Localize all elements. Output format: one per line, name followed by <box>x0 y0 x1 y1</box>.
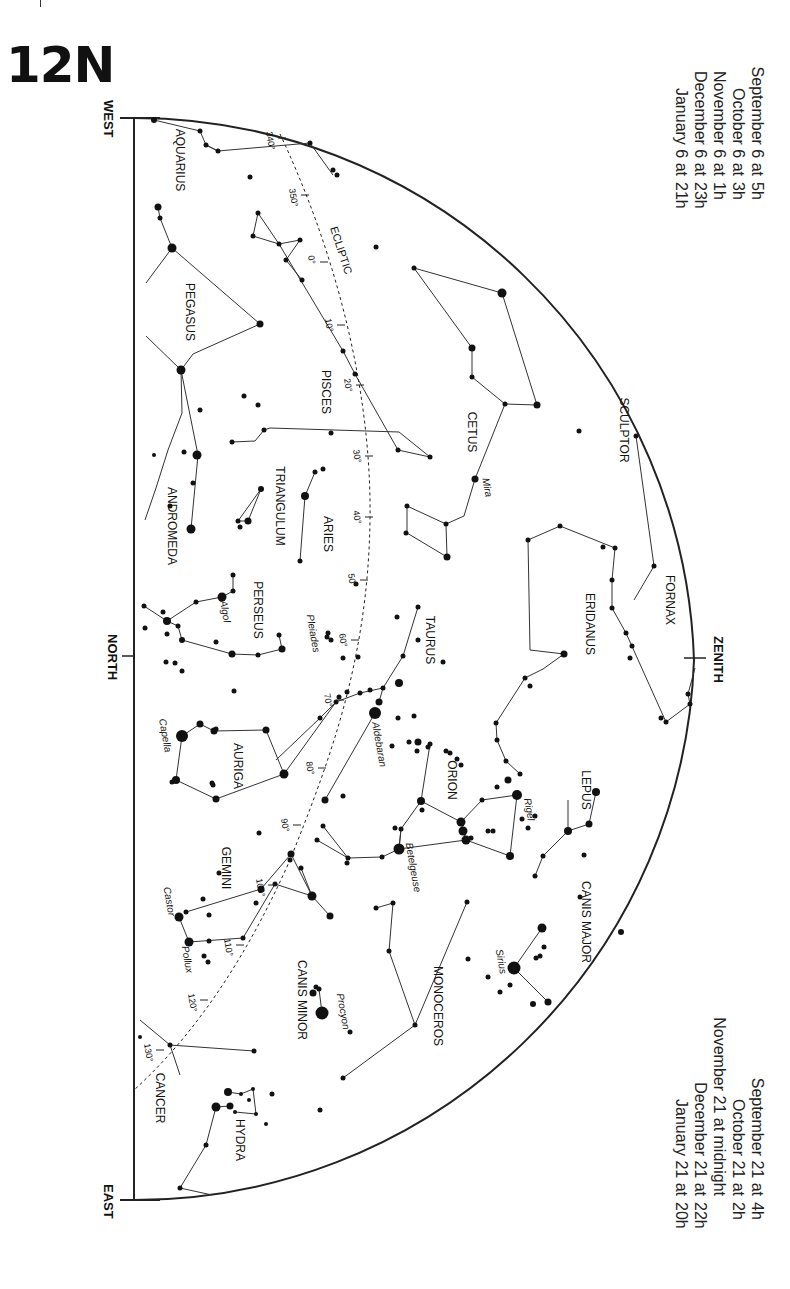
star <box>405 504 410 509</box>
star <box>469 345 476 352</box>
star <box>538 924 547 933</box>
star <box>341 349 346 354</box>
star <box>300 278 305 283</box>
constellation-label: AURIGA <box>231 743 245 789</box>
star <box>374 245 379 250</box>
constellation-label: PISCES <box>319 370 333 414</box>
star <box>329 638 334 643</box>
star <box>256 403 261 408</box>
star <box>248 175 253 180</box>
star <box>155 204 162 211</box>
star <box>227 1103 234 1110</box>
star <box>187 525 196 534</box>
star <box>390 744 395 749</box>
star <box>503 402 508 407</box>
star <box>412 266 417 271</box>
star-name-label: Capella <box>157 718 174 754</box>
star <box>498 289 507 298</box>
star <box>664 720 669 725</box>
star <box>224 1088 232 1096</box>
star <box>495 785 500 790</box>
star <box>197 721 204 728</box>
star <box>270 1092 275 1097</box>
ecliptic-degree-label: 90° <box>279 818 291 834</box>
star <box>204 143 209 148</box>
constellation-line <box>376 903 415 1025</box>
star <box>256 653 261 658</box>
star <box>251 234 256 239</box>
star <box>368 688 373 693</box>
star <box>394 844 405 855</box>
observation-date: December 21 at <box>691 1082 709 1196</box>
star <box>374 906 379 911</box>
star <box>335 173 340 178</box>
constellation-line <box>343 902 467 1078</box>
constellation-label: ORION <box>445 760 459 799</box>
star <box>176 730 188 742</box>
star <box>508 983 513 988</box>
constellation-line <box>407 506 446 524</box>
stars <box>138 117 693 1191</box>
star <box>239 1092 243 1096</box>
star <box>180 669 185 674</box>
constellation-lines <box>140 120 695 1195</box>
direction-north: NORTH <box>105 634 120 680</box>
constellation-label: ERIDANUS <box>583 593 597 655</box>
star <box>577 429 582 434</box>
star <box>444 522 449 527</box>
star <box>624 631 629 636</box>
star <box>202 954 207 959</box>
constellation-label: ARIES <box>321 516 335 552</box>
star <box>152 453 156 457</box>
star <box>254 901 259 906</box>
star <box>316 1007 329 1020</box>
star <box>262 428 267 433</box>
star <box>472 476 479 483</box>
star <box>395 679 403 687</box>
star <box>520 817 525 822</box>
star <box>164 660 169 665</box>
star <box>245 518 252 525</box>
star <box>212 1103 221 1112</box>
star-name-label: Sirius <box>494 948 509 975</box>
star <box>399 827 404 832</box>
star <box>284 258 289 263</box>
star <box>178 1186 183 1191</box>
star <box>457 818 466 827</box>
constellation-label: SCULPTOR <box>617 397 631 462</box>
star <box>341 656 346 661</box>
star <box>280 770 289 779</box>
star-name-label: Algol <box>218 598 233 624</box>
star <box>412 714 417 719</box>
star <box>415 739 422 746</box>
star <box>252 1049 257 1054</box>
star-name-label: Mira <box>480 477 494 498</box>
star-name-label: Aldebaran <box>370 720 389 768</box>
star <box>428 455 433 460</box>
constellation-label: TRIANGULUM <box>273 466 287 545</box>
star <box>395 615 400 620</box>
constellation-line <box>291 854 330 916</box>
star <box>526 538 531 543</box>
star <box>263 727 270 734</box>
star <box>211 783 216 788</box>
ecliptic-degree-label: 340° <box>264 131 277 151</box>
star <box>172 776 180 784</box>
constellation-label: HYDRA <box>233 1119 247 1161</box>
observation-hour: 3h <box>729 182 747 200</box>
star <box>313 470 318 475</box>
star <box>258 486 264 492</box>
star <box>426 745 431 750</box>
constellation-label: PEGASUS <box>183 283 197 341</box>
constellation-label: CANIS MAJOR <box>579 881 593 963</box>
star <box>325 635 330 640</box>
ecliptic-degree-label: 40° <box>351 510 363 526</box>
star <box>279 646 286 653</box>
star <box>346 856 351 861</box>
star <box>613 546 618 551</box>
star <box>318 716 323 721</box>
constellation-line <box>180 1106 230 1195</box>
observation-date: December 6 at <box>691 71 709 176</box>
star <box>233 1110 237 1114</box>
star <box>396 716 401 721</box>
